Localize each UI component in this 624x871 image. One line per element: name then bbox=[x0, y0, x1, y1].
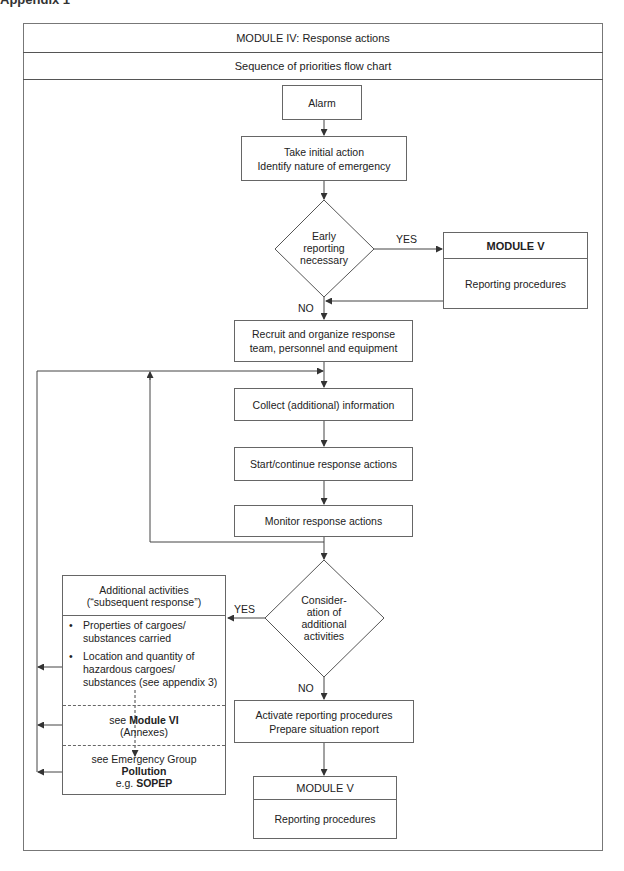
module-v-right-title: MODULE V bbox=[444, 233, 587, 259]
module-v-bottom-box: MODULE V Reporting procedures bbox=[253, 776, 397, 839]
start-continue-box: Start/continue response actions bbox=[234, 447, 413, 481]
additional-activities-bullets: Properties of cargoes/ substances carrie… bbox=[63, 619, 225, 705]
early-reporting-line3: necessary bbox=[284, 254, 364, 266]
module-v-right-body: Reporting procedures bbox=[444, 259, 587, 309]
start-continue-label: Start/continue response actions bbox=[250, 457, 397, 471]
initial-action-box: Take initial action Identify nature of e… bbox=[241, 136, 407, 181]
alarm-box: Alarm bbox=[282, 85, 362, 120]
early-reporting-decision: Early reporting necessary bbox=[284, 230, 364, 266]
emergency-group-line2: Pollution bbox=[122, 765, 167, 777]
additional-activities-box: Additional activities (“subsequent respo… bbox=[62, 575, 226, 795]
module-vi-prefix: see bbox=[109, 714, 129, 726]
monitor-box: Monitor response actions bbox=[234, 505, 413, 537]
early-reporting-line1: Early bbox=[284, 230, 364, 242]
consideration-line1: Consider- bbox=[284, 594, 364, 606]
sopep-prefix: e.g. bbox=[116, 777, 136, 789]
recruit-line1: Recruit and organize response bbox=[252, 327, 395, 341]
collect-box: Collect (additional) information bbox=[234, 388, 413, 421]
consideration-line2: ation of bbox=[284, 606, 364, 618]
initial-action-line1: Take initial action bbox=[284, 145, 364, 159]
module-vi-reference: see Module VI (Annexes) bbox=[63, 705, 225, 745]
activate-box: Activate reporting procedures Prepare si… bbox=[234, 700, 414, 743]
activate-line2: Prepare situation report bbox=[269, 722, 379, 736]
early-reporting-line2: reporting bbox=[284, 242, 364, 254]
collect-label: Collect (additional) information bbox=[253, 398, 395, 412]
emergency-group-line3: e.g. SOPEP bbox=[116, 777, 173, 789]
initial-action-line2: Identify nature of emergency bbox=[257, 159, 390, 173]
recruit-box: Recruit and organize response team, pers… bbox=[234, 320, 413, 362]
consideration-line3: additional bbox=[284, 618, 364, 630]
monitor-label: Monitor response actions bbox=[265, 514, 382, 528]
consideration-yes-label: YES bbox=[234, 603, 255, 615]
early-reporting-yes-label: YES bbox=[396, 233, 417, 245]
module-vi-line1: see Module VI bbox=[109, 714, 178, 726]
alarm-label: Alarm bbox=[308, 96, 335, 110]
bullet-properties: Properties of cargoes/ substances carrie… bbox=[63, 619, 219, 645]
module-v-bottom-title: MODULE V bbox=[254, 777, 396, 800]
recruit-line2: team, personnel and equipment bbox=[250, 341, 398, 355]
additional-activities-title2: (“subsequent response”) bbox=[87, 596, 201, 608]
bullet-location: Location and quantity of hazardous cargo… bbox=[63, 650, 219, 689]
module-vi-bold: Module VI bbox=[129, 714, 179, 726]
consideration-line4: activities bbox=[284, 630, 364, 642]
module-vi-line2: (Annexes) bbox=[120, 726, 168, 738]
emergency-group-line1: see Emergency Group bbox=[91, 753, 196, 765]
additional-activities-title1: Additional activities bbox=[99, 584, 188, 596]
emergency-group-reference: see Emergency Group Pollution e.g. SOPEP bbox=[63, 745, 225, 795]
additional-activities-decision: Consider- ation of additional activities bbox=[284, 594, 364, 642]
sopep-bold: SOPEP bbox=[136, 777, 172, 789]
module-v-right-box: MODULE V Reporting procedures bbox=[443, 232, 588, 309]
consideration-no-label: NO bbox=[298, 682, 314, 694]
module-v-bottom-body: Reporting procedures bbox=[254, 800, 396, 838]
early-reporting-no-label: NO bbox=[298, 302, 314, 314]
activate-line1: Activate reporting procedures bbox=[255, 708, 392, 722]
additional-activities-header: Additional activities (“subsequent respo… bbox=[63, 576, 225, 616]
